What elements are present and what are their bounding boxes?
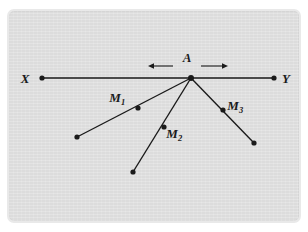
point-m3-end-dot xyxy=(251,140,256,145)
point-m1-dot xyxy=(135,105,140,110)
label-m2-subscript: 2 xyxy=(177,133,183,143)
figure-root: X Y A M 1 M 2 M 3 xyxy=(0,0,308,232)
point-m3-dot xyxy=(220,107,225,112)
label-a: A xyxy=(182,50,192,65)
point-a-dot xyxy=(188,75,194,81)
left-arrow-head-icon xyxy=(148,63,154,68)
point-m1-end-dot xyxy=(74,134,79,139)
label-m1-subscript: 1 xyxy=(121,97,125,107)
geometry-diagram: X Y A M 1 M 2 M 3 xyxy=(0,0,308,232)
label-y: Y xyxy=(282,71,291,86)
label-x: X xyxy=(20,71,30,86)
label-m3-subscript: 3 xyxy=(238,105,244,115)
ray-a-to-m2 xyxy=(133,78,191,172)
right-arrow-head-icon xyxy=(222,63,228,68)
point-m2-end-dot xyxy=(130,169,135,174)
point-y-dot xyxy=(271,75,276,80)
label-m3: M xyxy=(226,98,239,113)
label-m1: M xyxy=(108,90,121,105)
label-m2: M xyxy=(165,126,178,141)
point-x-dot xyxy=(39,75,44,80)
